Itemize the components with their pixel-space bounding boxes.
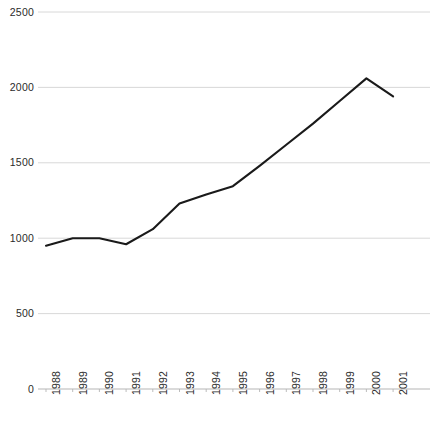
x-axis-tick-label: 1990: [104, 371, 115, 395]
x-axis-tick-label: 1994: [211, 371, 222, 395]
x-axis-tick-label: 1991: [131, 371, 142, 395]
plot-area: [0, 0, 438, 431]
y-axis-tick-label: 2500: [0, 7, 34, 18]
gridlines: [38, 12, 430, 389]
y-axis-tick-label: 0: [0, 384, 34, 395]
x-axis-tick-label: 1996: [265, 371, 276, 395]
x-axis-tick-label: 1995: [238, 371, 249, 395]
x-axis-tick-label: 2000: [371, 371, 382, 395]
x-axis-tick-label: 1989: [78, 371, 89, 395]
x-axis-tick-label: 1992: [158, 371, 169, 395]
line-chart: 05001000150020002500 1988198919901991199…: [0, 0, 438, 431]
y-axis-tick-label: 2000: [0, 82, 34, 93]
x-axis-tick-label: 1997: [291, 371, 302, 395]
y-axis-tick-label: 1500: [0, 157, 34, 168]
data-line-series-1: [46, 78, 393, 245]
x-axis-tick-label: 1988: [51, 371, 62, 395]
x-axis-tick-label: 1993: [185, 371, 196, 395]
x-axis-tick-label: 1998: [318, 371, 329, 395]
y-axis-tick-label: 1000: [0, 233, 34, 244]
y-axis-tick-label: 500: [0, 308, 34, 319]
x-axis-tick-label: 1999: [345, 371, 356, 395]
x-axis-tick-label: 2001: [398, 371, 409, 395]
